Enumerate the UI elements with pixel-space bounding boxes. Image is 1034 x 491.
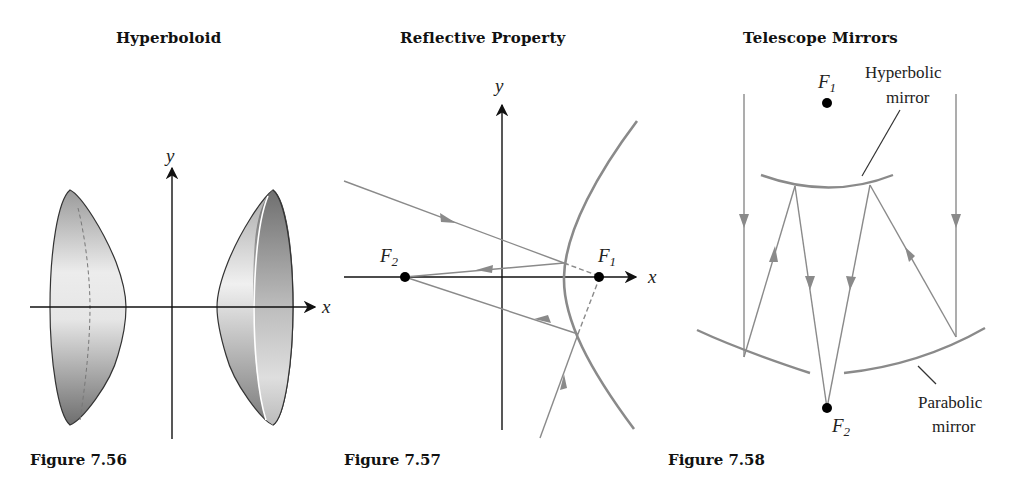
incoming-ray-right-arrow [951,214,961,228]
hyperboloid-y-label: y [164,145,175,166]
reflective-y-label: y [493,75,504,96]
parabolic-mirror-right [844,328,985,373]
incoming-ray-2 [540,334,578,438]
reflected-ray-1-arrow [476,265,493,273]
focus-f1-label: F1 [597,245,616,269]
reflected-ray-right-up [870,185,956,337]
reflected-ray-2 [405,277,578,334]
telescope-focus-f1-label: F1 [817,71,836,95]
parabolic-mirror-label-line2: mirror [932,417,976,436]
hyperbolic-mirror-label-line1: Hyperbolic [865,63,942,82]
ray-1-dashed-extension [564,263,599,276]
telescope-focus-f2-label: F2 [831,415,851,439]
focus-f2-point [400,272,410,282]
hyperbolic-mirror-label-line2: mirror [886,88,930,107]
converging-ray-left [795,186,827,408]
focus-f2-label: F2 [379,245,399,269]
reflective-x-label: x [647,266,657,287]
hyperbolic-mirror-leader [862,110,900,176]
hyperboloid-figure: x y [30,145,331,439]
reflected-ray-left-up [744,186,795,357]
incoming-ray-left-arrow [739,214,749,228]
parabolic-mirror-left [697,330,810,373]
telescope-focus-f1-point [822,98,832,108]
ray-2-dashed-extension [578,279,599,334]
focus-f1-point [594,272,604,282]
telescope-mirrors-figure: F1 Hyperbolic mirror Parabolic mirror [697,63,985,439]
telescope-focus-f2-point [822,403,832,413]
reflected-ray-right-up-arrow [905,247,915,262]
reflective-property-figure: x y F2 F1 [344,75,657,438]
figures-canvas: x y x y [0,0,1034,491]
parabolic-mirror-leader [918,366,936,384]
figure-page: Hyperboloid Reflective Property Telescop… [0,0,1034,491]
converging-ray-right-arrow [846,276,856,290]
hyperbolic-mirror [761,175,893,188]
hyperboloid-x-label: x [321,296,331,317]
converging-ray-right [827,185,870,408]
converging-ray-left-arrow [805,276,815,290]
parabolic-mirror-label-line1: Parabolic [918,393,983,412]
